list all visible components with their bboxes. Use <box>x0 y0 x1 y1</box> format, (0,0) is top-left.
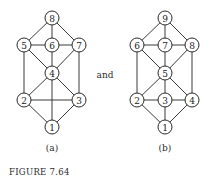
node-label: 3 <box>162 96 168 106</box>
node-label: 4 <box>49 69 55 79</box>
node-3: 3 <box>158 93 172 107</box>
node-label: 3 <box>76 96 82 106</box>
node-6: 6 <box>45 38 59 52</box>
node-9: 9 <box>158 11 172 25</box>
node-label: 9 <box>162 14 168 24</box>
node-6: 6 <box>130 38 144 52</box>
node-label: 5 <box>162 69 168 79</box>
node-label: 5 <box>21 41 27 51</box>
node-label: 1 <box>49 123 55 133</box>
node-5: 5 <box>158 66 172 80</box>
graph-a: 12345678 <box>17 11 86 134</box>
node-label: 6 <box>49 41 55 51</box>
node-7: 7 <box>72 38 86 52</box>
node-label: 2 <box>21 96 27 106</box>
node-label: 7 <box>162 41 168 51</box>
node-label: 7 <box>76 41 82 51</box>
figure-canvas: 12345678 123456789 and (a) (b) FIGURE 7.… <box>0 0 212 181</box>
node-3: 3 <box>72 93 86 107</box>
node-label: 6 <box>134 41 140 51</box>
node-8: 8 <box>185 38 199 52</box>
node-5: 5 <box>17 38 31 52</box>
node-label: 4 <box>189 96 195 106</box>
node-label: 8 <box>189 41 195 51</box>
node-8: 8 <box>45 11 59 25</box>
node-7: 7 <box>158 38 172 52</box>
node-4: 4 <box>45 66 59 80</box>
node-2: 2 <box>17 93 31 107</box>
graph-b: 123456789 <box>130 11 199 134</box>
node-2: 2 <box>130 93 144 107</box>
connector-and: and <box>97 70 114 80</box>
graph-a-label: (a) <box>46 143 58 153</box>
node-label: 1 <box>162 123 168 133</box>
node-1: 1 <box>45 120 59 134</box>
node-1: 1 <box>158 120 172 134</box>
node-4: 4 <box>185 93 199 107</box>
node-label: 8 <box>49 14 55 24</box>
graph-b-label: (b) <box>159 143 172 153</box>
figure-caption: FIGURE 7.64 <box>9 167 70 177</box>
node-label: 2 <box>134 96 140 106</box>
